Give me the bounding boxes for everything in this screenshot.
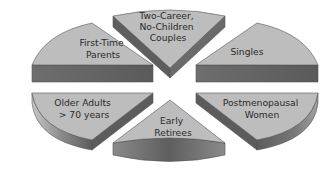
segment-side-curve: [113, 138, 225, 162]
exploded-pie-diagram: First-Time Parents Two-Career, No-Childr…: [0, 0, 329, 172]
segment-label: Singles: [230, 46, 263, 57]
segment-side: [196, 65, 318, 82]
segment-label: First-Time Parents: [79, 37, 126, 60]
segment-side: [32, 65, 153, 82]
segment-label: Older Adults > 70 years: [54, 97, 114, 120]
